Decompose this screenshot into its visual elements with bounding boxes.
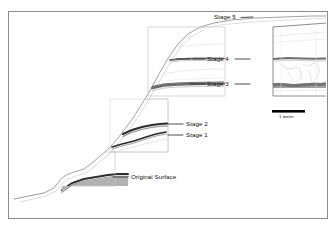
label-stage-1: Stage 1 xyxy=(186,132,208,138)
label-stage-4: Stage 4 xyxy=(207,56,229,62)
scale-bar-label: 1 meter xyxy=(279,115,294,119)
leader-stage5 xyxy=(241,17,253,18)
label-stage-3: Stage 3 xyxy=(207,81,229,87)
label-original-surface: Original Surface xyxy=(131,174,176,180)
label-stage-2: Stage 2 xyxy=(186,121,208,127)
inset-detail-group xyxy=(273,23,327,96)
scale-bar xyxy=(272,110,305,113)
figure-canvas: Stage 5 Stage 4 Stage 3 Stage 2 Stage 1 … xyxy=(0,0,336,230)
label-stage-5: Stage 5 xyxy=(214,14,236,20)
